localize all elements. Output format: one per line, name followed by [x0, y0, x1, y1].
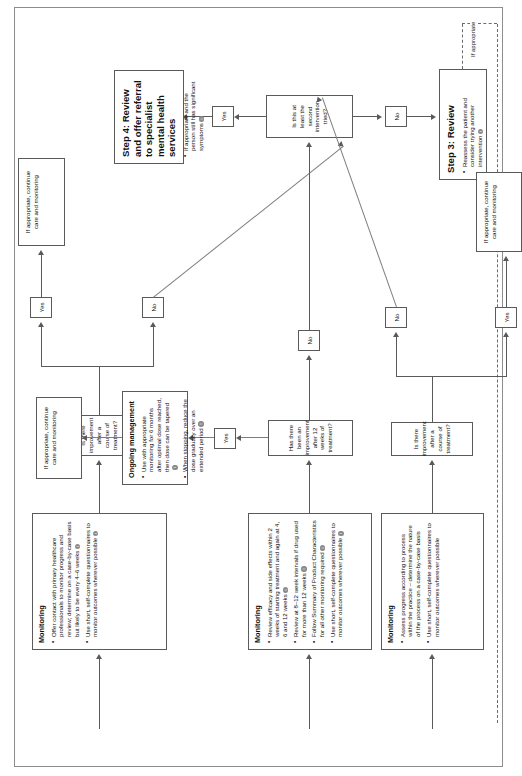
- second-yes-line: [238, 116, 266, 117]
- decision-text: Is there improvement after a course of t…: [412, 421, 452, 456]
- bullet-item: Follow Summary of Product Characteristic…: [310, 520, 325, 643]
- node-continue-care-mid: If appropriate, continue care and monito…: [36, 397, 82, 479]
- bullet-item: When stopping, reduce the dose gradually…: [181, 398, 204, 478]
- node-monitoring-mid: Monitoring Review efficacy and side effe…: [248, 513, 372, 650]
- reference-icon: i: [283, 587, 288, 592]
- bullet-item: Reassess the patient and consider trying…: [461, 76, 484, 173]
- yes-to-continue-arrow-1: [38, 250, 44, 255]
- node-title: Step 3: Review: [445, 76, 457, 173]
- bullet-item: Use short, self-complete questionnaires …: [84, 520, 99, 643]
- bullet-item: Assess progress according to process wit…: [399, 520, 422, 643]
- label-no-4: No: [385, 307, 407, 328]
- node-ongoing-management: Ongoing management Use with appropriate …: [122, 391, 188, 485]
- node-title: Monitoring: [387, 520, 396, 643]
- connector-2: [309, 463, 310, 513]
- branch-yes-1: [41, 325, 42, 367]
- label-if-appropriate: If appropriate: [470, 20, 476, 59]
- node-title: Monitoring: [38, 520, 47, 643]
- node-title: Ongoing management: [128, 398, 137, 478]
- split-line-3: [432, 377, 433, 422]
- entry-arrow-3: [429, 654, 435, 659]
- label-yes-4: Yes: [495, 307, 517, 328]
- node-text: If appropriate, continue care and monito…: [482, 179, 498, 245]
- bullet-item: Review efficacy and side effects within …: [266, 520, 289, 643]
- label-no-2: No: [298, 330, 320, 351]
- label-yes-1: Yes: [30, 297, 52, 318]
- decision-is-there-improvement-bottom: Is there improvement after a course of t…: [391, 422, 473, 456]
- reference-icon: i: [199, 116, 204, 121]
- second-no-arrow: [377, 114, 382, 120]
- no-line-2b: [309, 145, 310, 330]
- entry-line-2: [309, 657, 310, 729]
- connector-arrow-1: [96, 460, 102, 465]
- branch-yes-arrow-3: [503, 332, 509, 337]
- node-continue-care-bottom: If appropriate, continue care and monito…: [476, 172, 522, 252]
- split-vert-1: [41, 366, 153, 367]
- node-step3: Step 3: Review Reassess the patient and …: [439, 69, 487, 180]
- bullet-list: Assess progress according to process wit…: [399, 520, 441, 643]
- second-yes-arrow: [234, 114, 239, 120]
- yes-arrow-2: [236, 435, 241, 441]
- dashed-feedback-right: [462, 24, 463, 69]
- branch-no-3: [396, 335, 397, 377]
- bullet-item: Use short, self-complete questionnaires …: [425, 520, 440, 643]
- label-yes-3: Yes: [212, 106, 234, 127]
- decision-improvement-12-weeks: Has there been an improvement after 12 w…: [268, 420, 353, 456]
- reference-icon: i: [320, 545, 325, 550]
- no-line-2: [309, 358, 310, 420]
- connector-3: [432, 463, 433, 513]
- branch-yes-arrow-1: [38, 322, 44, 327]
- node-monitoring-top: Monitoring Offer contact with primary he…: [32, 513, 167, 650]
- connector-arrow-2: [306, 460, 312, 465]
- second-no-line: [353, 116, 379, 117]
- bullet-item: Review at 8–12 week intervals if drug us…: [292, 520, 307, 643]
- label-yes-2: Yes: [214, 428, 236, 449]
- split-vert-3: [396, 376, 506, 377]
- entry-line-1: [99, 657, 100, 729]
- second-no-line-b: [407, 116, 433, 117]
- ongoing-to-continue-line: [86, 437, 122, 438]
- decision-text: Has there been an improvement after 12 w…: [287, 420, 335, 455]
- node-title: Step 4: Review and offer referral to spe…: [120, 77, 178, 157]
- bullet-list: Reassess the patient and consider trying…: [461, 76, 484, 173]
- reference-icon: i: [75, 544, 80, 549]
- second-no-arrow-b: [431, 114, 436, 120]
- bullet-list: Review efficacy and side effects within …: [266, 520, 345, 643]
- reference-icon: i: [172, 465, 177, 470]
- bullet-item: Use short, self-complete questionnaires …: [329, 520, 344, 643]
- reference-icon: i: [198, 421, 203, 426]
- entry-arrow-1: [96, 654, 102, 659]
- flowchart-canvas: Monitoring Offer contact with primary he…: [10, 0, 510, 747]
- reference-icon: i: [93, 531, 98, 536]
- no-arrow-2: [306, 355, 312, 360]
- dashed-feedback-long: [497, 24, 498, 723]
- reference-icon: i: [301, 566, 306, 571]
- split-line-1: [99, 367, 100, 415]
- entry-line-3: [432, 657, 433, 729]
- bullet-item: Use with appropriate monitoring for 6 mo…: [140, 398, 179, 478]
- bullet-list: Use with appropriate monitoring for 6 mo…: [140, 398, 205, 478]
- ongoing-to-continue-arrow: [82, 435, 87, 441]
- bullet-item: If appropriate and the person still has …: [182, 77, 205, 157]
- entry-arrow-2: [306, 654, 312, 659]
- node-monitoring-bottom: Monitoring Assess progress according to …: [381, 513, 484, 650]
- dashed-feedback-down: [462, 23, 497, 24]
- connector-arrow-3: [429, 460, 435, 465]
- yes-to-continue-3: [506, 259, 507, 307]
- branch-yes-3: [506, 335, 507, 377]
- node-continue-care-top: If appropriate, continue care and monito…: [18, 158, 65, 246]
- yes-to-continue-1: [41, 253, 42, 297]
- reference-icon: i: [338, 531, 343, 536]
- bullet-list: Offer contact with primary healthcare pr…: [50, 520, 99, 643]
- branch-no-arrow-1: [150, 322, 156, 327]
- bullet-item: Offer contact with primary healthcare pr…: [50, 520, 81, 643]
- diagonal-no-1-to-second-intervention: [153, 146, 344, 298]
- node-text: If appropriate, continue care and monito…: [42, 404, 58, 472]
- diagonal-no-4-to-second-intervention: [322, 97, 397, 307]
- node-step4: Step 4: Review and offer referral to spe…: [114, 70, 184, 164]
- yes-to-continue-arrow-3: [503, 256, 509, 261]
- branch-no-arrow-3: [393, 332, 399, 337]
- node-text: If appropriate, continue care and monito…: [24, 165, 40, 239]
- label-no-3: No: [385, 106, 407, 127]
